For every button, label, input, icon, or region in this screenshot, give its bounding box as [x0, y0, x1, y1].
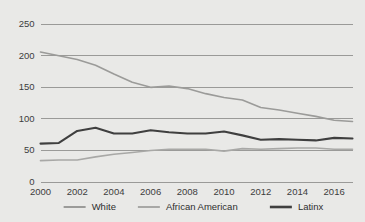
x-tick-label: 2004: [103, 186, 124, 197]
x-axis-tick-labels: 200020022004200620082010201220142016: [30, 186, 345, 197]
y-tick-label: 200: [19, 50, 35, 61]
chart-container: 050100150200250 200020022004200620082010…: [0, 0, 365, 222]
chart-svg: 050100150200250 200020022004200620082010…: [0, 0, 365, 222]
x-tick-label: 2006: [140, 186, 161, 197]
legend-label-latinx: Latinx: [298, 201, 324, 212]
x-tick-label: 2014: [287, 186, 308, 197]
x-tick-label: 2016: [324, 186, 345, 197]
x-tick-label: 2010: [213, 186, 234, 197]
series-line-african-american: [41, 148, 353, 161]
y-tick-label: 250: [19, 18, 35, 29]
legend-label-white: White: [92, 201, 116, 212]
y-tick-label: 100: [19, 113, 35, 124]
line-chart: 050100150200250 200020022004200620082010…: [0, 0, 365, 222]
y-axis-tick-labels: 050100150200250: [19, 18, 35, 187]
series-line-latinx: [41, 128, 353, 144]
x-tick-label: 2012: [250, 186, 271, 197]
y-tick-label: 150: [19, 81, 35, 92]
data-series-group: [41, 52, 353, 161]
chart-legend: WhiteAfrican AmericanLatinx: [64, 201, 324, 212]
y-tick-label: 50: [24, 144, 35, 155]
x-tick-label: 2000: [30, 186, 51, 197]
series-line-white: [41, 52, 353, 122]
x-tick-label: 2008: [177, 186, 198, 197]
x-tick-label: 2002: [67, 186, 88, 197]
legend-label-african-american: African American: [166, 201, 238, 212]
